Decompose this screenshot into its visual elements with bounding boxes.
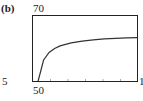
plot-area xyxy=(0,0,143,101)
x-tick-marks xyxy=(50,80,121,81)
plot-frame xyxy=(33,16,138,82)
data-curve xyxy=(38,38,138,82)
